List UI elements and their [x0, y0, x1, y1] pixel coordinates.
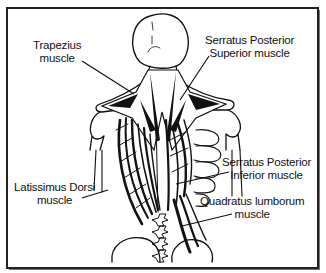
back-muscle-mass [116, 118, 206, 252]
trapezius-muscle [102, 70, 226, 150]
label-serratus-posterior-superior: Serratus Posterior Superior muscle [205, 34, 294, 60]
label-quadratus-lumborum: Quadratus lumborum muscle [200, 195, 304, 221]
label-serratus-inferior-line1: Serratus Posterior [222, 156, 311, 169]
label-quadratus-line2: muscle [200, 208, 304, 221]
label-serratus-posterior-inferior: Serratus Posterior Inferior muscle [222, 156, 311, 182]
label-quadratus-line1: Quadratus lumborum [200, 195, 304, 208]
label-trapezius-line1: Trapezius [33, 39, 81, 52]
leader-trapezius [82, 61, 134, 94]
label-serratus-superior-line2: Superior muscle [205, 47, 294, 60]
label-serratus-inferior-line2: Inferior muscle [222, 169, 311, 182]
skull [133, 14, 189, 68]
label-trapezius: Trapezius muscle [33, 39, 81, 65]
label-serratus-superior-line1: Serratus Posterior [205, 34, 294, 47]
label-latissimus-dorsi: Latissimus Dorsi muscle [14, 181, 95, 207]
label-trapezius-line2: muscle [33, 52, 81, 65]
label-latissimus-line2: muscle [14, 194, 95, 207]
label-latissimus-line1: Latissimus Dorsi [14, 181, 95, 194]
